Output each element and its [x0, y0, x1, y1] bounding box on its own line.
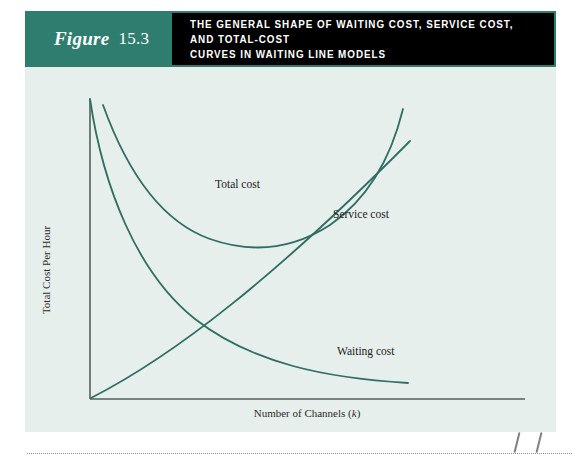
figure-number-block: Figure 15.3 — [25, 11, 172, 67]
figure-label: Figure — [54, 28, 110, 50]
page-margin-mark — [513, 432, 520, 453]
page-dotted-rule — [27, 453, 572, 455]
chart-plot — [25, 67, 556, 432]
figure-header: Figure 15.3 THE GENERAL SHAPE OF WAITING… — [25, 11, 556, 67]
curve-waiting-cost — [90, 99, 408, 383]
figure-number: 15.3 — [119, 29, 150, 49]
y-axis-title: Total Cost Per Hour — [40, 205, 52, 335]
curve-label-waiting-cost: Waiting cost — [337, 345, 395, 357]
chart-area: Total Cost Per Hour Number of Channels (… — [25, 67, 556, 432]
x-axis-title: Number of Channels (k) — [197, 407, 417, 419]
figure-panel: Figure 15.3 THE GENERAL SHAPE OF WAITING… — [25, 11, 556, 432]
page-margin-mark — [535, 432, 542, 453]
x-axis-title-suffix: ) — [357, 407, 361, 419]
curve-label-service-cost: Service cost — [333, 208, 389, 220]
figure-title: THE GENERAL SHAPE OF WAITING COST, SERVI… — [190, 17, 532, 62]
x-axis-title-prefix: Number of Channels ( — [254, 407, 352, 419]
curve-label-total-cost: Total cost — [215, 178, 260, 190]
curve-total-cost — [103, 105, 403, 247]
figure-title-block: THE GENERAL SHAPE OF WAITING COST, SERVI… — [172, 11, 556, 67]
